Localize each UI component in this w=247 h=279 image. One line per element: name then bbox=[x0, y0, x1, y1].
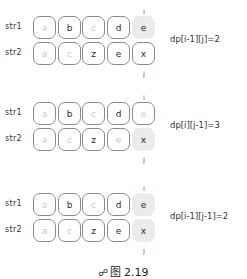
str2-cell-2: c bbox=[58, 42, 81, 65]
str2-cell-4: e bbox=[107, 128, 130, 151]
str2-label: str2 bbox=[5, 48, 22, 57]
str2-cell-4: e bbox=[107, 219, 130, 242]
str2-cell-2: c bbox=[58, 128, 81, 151]
str2-cell-4: e bbox=[107, 42, 130, 65]
str1-cell-2: b bbox=[58, 16, 81, 39]
str2-cell-5: x bbox=[132, 219, 155, 242]
str2-cell-1: a bbox=[33, 42, 56, 65]
cell-char: e bbox=[116, 226, 122, 236]
figure-caption: ☍图 2.19 bbox=[0, 263, 247, 279]
diagram-panel-3: istr1str2abcdeaczexjdp[i-1][j-1]=2 bbox=[0, 185, 247, 271]
cell-char: b bbox=[67, 109, 73, 119]
str2-cell-5: x bbox=[132, 42, 155, 65]
str1-label: str1 bbox=[5, 108, 22, 117]
str2-cell-1: a bbox=[33, 219, 56, 242]
cell-char: d bbox=[116, 109, 122, 119]
str1-cell-4: d bbox=[107, 16, 130, 39]
str1-cell-3: c bbox=[82, 16, 105, 39]
cell-char: x bbox=[141, 135, 146, 145]
cell-char: e bbox=[116, 49, 122, 59]
str2-cell-1: a bbox=[33, 128, 56, 151]
j-index-label: j bbox=[139, 156, 149, 164]
cell-char: z bbox=[91, 135, 96, 145]
str1-label: str1 bbox=[5, 199, 22, 208]
cell-char: b bbox=[67, 200, 73, 210]
cell-char: e bbox=[116, 135, 122, 145]
cell-char: c bbox=[67, 226, 72, 236]
str2-cell-3: z bbox=[82, 42, 105, 65]
cell-char: z bbox=[91, 226, 96, 236]
str1-cell-3: c bbox=[82, 193, 105, 216]
cell-char: x bbox=[141, 226, 146, 236]
cell-char: c bbox=[91, 23, 96, 33]
str1-cell-5: e bbox=[132, 193, 155, 216]
i-index-label: i bbox=[139, 8, 149, 16]
cell-char: a bbox=[42, 135, 48, 145]
cell-char: x bbox=[141, 49, 146, 59]
cell-char: b bbox=[67, 23, 73, 33]
cell-char: c bbox=[67, 49, 72, 59]
i-index-label: i bbox=[139, 185, 149, 193]
str2-cell-5: x bbox=[132, 128, 155, 151]
cell-char: a bbox=[42, 23, 48, 33]
str2-label: str2 bbox=[5, 134, 22, 143]
j-index-label: j bbox=[139, 247, 149, 255]
str1-label: str1 bbox=[5, 22, 22, 31]
diagram-panel-1: istr1str2abcdeaczexjdp[i-1][j]=2 bbox=[0, 8, 247, 94]
cell-char: a bbox=[42, 49, 48, 59]
cell-char: d bbox=[116, 200, 122, 210]
dp-formula: dp[i-1][j]=2 bbox=[170, 34, 220, 44]
str1-cell-1: a bbox=[33, 193, 56, 216]
cell-char: e bbox=[141, 23, 147, 33]
str2-cell-2: c bbox=[58, 219, 81, 242]
str1-cell-4: d bbox=[107, 193, 130, 216]
dp-formula: dp[i][j-1]=3 bbox=[170, 120, 220, 130]
caption-text: 图 2.19 bbox=[110, 266, 149, 279]
str1-cell-5: e bbox=[132, 16, 155, 39]
cell-char: a bbox=[42, 109, 48, 119]
figure-icon: ☍ bbox=[98, 267, 108, 278]
str1-cell-1: a bbox=[33, 16, 56, 39]
diagram-panel-2: istr1str2abcdeaczexjdp[i][j-1]=3 bbox=[0, 94, 247, 180]
str2-cell-3: z bbox=[82, 219, 105, 242]
cell-char: d bbox=[116, 23, 122, 33]
cell-char: e bbox=[141, 200, 147, 210]
str1-cell-4: d bbox=[107, 102, 130, 125]
str1-cell-2: b bbox=[58, 193, 81, 216]
str2-label: str2 bbox=[5, 225, 22, 234]
i-index-label: i bbox=[139, 94, 149, 102]
str1-cell-1: a bbox=[33, 102, 56, 125]
cell-char: z bbox=[91, 49, 96, 59]
cell-char: a bbox=[42, 200, 48, 210]
dp-formula: dp[i-1][j-1]=2 bbox=[170, 211, 228, 221]
str2-cell-3: z bbox=[82, 128, 105, 151]
cell-char: c bbox=[67, 135, 72, 145]
cell-char: c bbox=[91, 109, 96, 119]
j-index-label: j bbox=[139, 70, 149, 78]
str1-cell-5: e bbox=[132, 102, 155, 125]
cell-char: a bbox=[42, 226, 48, 236]
cell-char: e bbox=[141, 109, 147, 119]
str1-cell-3: c bbox=[82, 102, 105, 125]
str1-cell-2: b bbox=[58, 102, 81, 125]
cell-char: c bbox=[91, 200, 96, 210]
